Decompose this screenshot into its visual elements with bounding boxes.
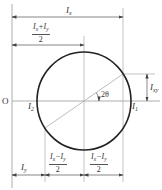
mohr-circle-diagram [0,0,162,190]
origin-label: O [2,96,9,106]
half-diff-left-label: Ix−Iy 2 [49,153,67,174]
i1-label: I1 [132,102,138,112]
half-sum-label: Ix+Iy 2 [32,23,50,44]
ix-label: Ix [66,6,72,16]
angle-arc [96,93,99,102]
half-diff-right-label: Ix−Iy 2 [90,153,108,174]
iy-label: Iy [21,163,27,173]
angle-label: 2θ [101,91,109,99]
i2-label: I2 [28,102,34,112]
ixy-label: Ixy [150,83,158,93]
